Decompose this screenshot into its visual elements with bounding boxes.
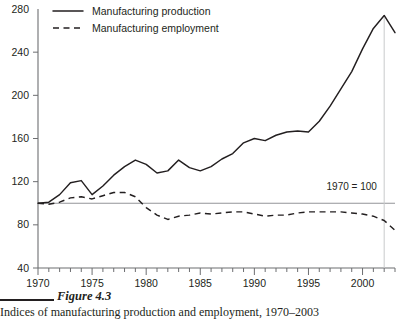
x-tick-label-1975: 1975: [80, 277, 104, 289]
x-axis-tick-labels: 1970197519801985199019952000: [26, 277, 374, 289]
legend-label-employment: Manufacturing employment: [92, 22, 219, 34]
figure-caption-block: Figure 4.3 Indices of manufacturing prod…: [0, 289, 401, 313]
chart-axes: 2802402001601208040 19701975198019851990…: [11, 3, 395, 289]
x-tick-label-2000: 2000: [351, 277, 375, 289]
figure-caption-text: Indices of manufacturing production and …: [0, 305, 401, 320]
x-axis-ticks: [38, 268, 395, 275]
legend-label-production: Manufacturing production: [92, 5, 211, 17]
line-chart: Manufacturing production Manufacturing e…: [0, 0, 401, 290]
figure-number-label: Figure 4.3: [57, 289, 111, 304]
series-line-employment: [38, 192, 395, 230]
y-tick-label-200: 200: [11, 89, 29, 101]
x-tick-label-1980: 1980: [135, 277, 159, 289]
caption-rule: [0, 299, 54, 301]
y-tick-label-40: 40: [17, 262, 29, 274]
y-tick-label-240: 240: [11, 46, 29, 58]
y-tick-label-280: 280: [11, 3, 29, 15]
y-tick-label-120: 120: [11, 175, 29, 187]
x-tick-label-1990: 1990: [243, 277, 267, 289]
x-tick-label-1985: 1985: [189, 277, 213, 289]
x-tick-label-1970: 1970: [26, 277, 50, 289]
base-year-annotation: 1970 = 100: [327, 181, 378, 192]
y-tick-label-80: 80: [17, 218, 29, 230]
y-axis-tick-labels: 2802402001601208040: [11, 3, 29, 274]
series-line-production: [38, 15, 395, 203]
x-tick-label-1995: 1995: [297, 277, 321, 289]
y-tick-label-160: 160: [11, 132, 29, 144]
chart-legend: Manufacturing production Manufacturing e…: [53, 5, 219, 34]
y-axis-ticks: [33, 52, 38, 268]
